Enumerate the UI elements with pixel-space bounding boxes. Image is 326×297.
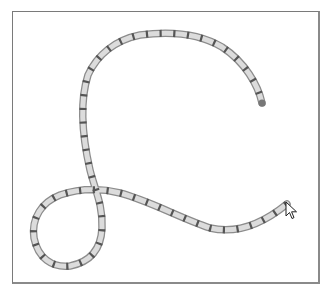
chain-outline (34, 33, 287, 266)
chain-start-cap[interactable] (258, 99, 265, 106)
chain-drawing (0, 0, 326, 297)
drawing-stage (0, 0, 326, 297)
mouse-cursor-icon (285, 201, 299, 221)
